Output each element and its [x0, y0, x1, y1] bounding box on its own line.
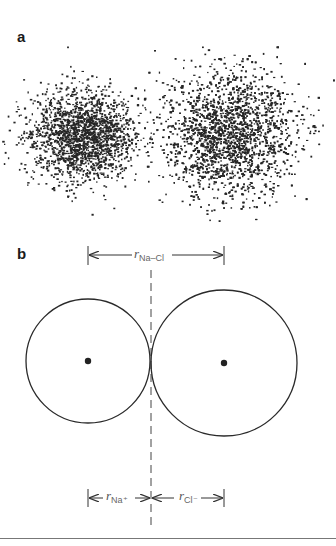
r-cl-label: rCl⁻ [179, 488, 198, 505]
radius-cl-dimension: rCl⁻ [152, 488, 224, 507]
radius-na-dimension: rNa⁺ [88, 488, 150, 507]
chloride-electron-cloud [125, 46, 335, 222]
r-na-cl-label: rNa–Cl [134, 246, 164, 263]
ion-diagram: rNa–Cl rNa⁺ rCl⁻ [0, 0, 336, 546]
chloride-nucleus-dot [221, 360, 227, 366]
sodium-electron-cloud [0, 47, 169, 216]
r-na-label: rNa⁺ [106, 488, 128, 505]
sodium-nucleus-dot [85, 358, 91, 364]
distance-na-cl-dimension: rNa–Cl [88, 246, 224, 265]
